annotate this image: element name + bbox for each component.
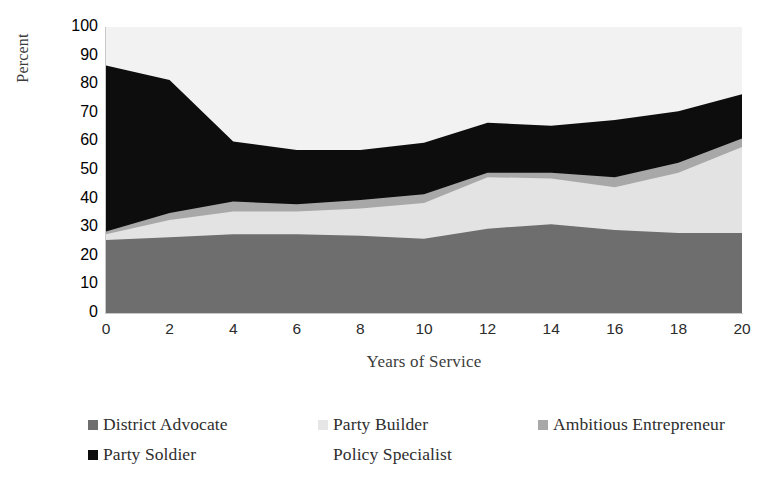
legend-label: Ambitious Entrepreneur bbox=[553, 414, 725, 435]
chart-legend: District AdvocateParty BuilderAmbitious … bbox=[88, 414, 748, 474]
x-tick-4: 4 bbox=[213, 320, 253, 338]
y-tick-70: 70 bbox=[40, 103, 98, 121]
legend-item-party-soldier[interactable]: Party Soldier bbox=[88, 444, 318, 465]
y-tick-50: 50 bbox=[40, 160, 98, 178]
legend-row-2: Party SoldierPolicy Specialist bbox=[88, 444, 748, 465]
x-tick-10: 10 bbox=[404, 320, 444, 338]
legend-label: District Advocate bbox=[103, 414, 228, 435]
legend-swatch-ambitious-entrepreneur bbox=[538, 420, 548, 430]
y-tick-30: 30 bbox=[40, 217, 98, 235]
legend-swatch-district-advocate bbox=[88, 420, 98, 430]
legend-label: Party Soldier bbox=[103, 444, 196, 465]
legend-swatch-party-soldier bbox=[88, 450, 98, 460]
y-tick-60: 60 bbox=[40, 131, 98, 149]
plot-area bbox=[106, 27, 742, 313]
x-tick-18: 18 bbox=[658, 320, 698, 338]
x-tick-20: 20 bbox=[722, 320, 762, 338]
y-tick-20: 20 bbox=[40, 246, 98, 264]
x-tick-0: 0 bbox=[86, 320, 126, 338]
x-axis-title: Years of Service bbox=[106, 352, 742, 372]
stacked-area-chart: Percent 0102030405060708090100 024681012… bbox=[0, 0, 779, 501]
legend-swatch-party-builder bbox=[318, 420, 328, 430]
y-tick-100: 100 bbox=[40, 17, 98, 35]
y-tick-80: 80 bbox=[40, 74, 98, 92]
y-axis-title: Percent bbox=[14, 0, 32, 118]
area-series-group bbox=[106, 27, 742, 313]
y-tick-10: 10 bbox=[40, 274, 98, 292]
legend-item-ambitious-entrepreneur[interactable]: Ambitious Entrepreneur bbox=[538, 414, 725, 435]
legend-swatch-policy-specialist bbox=[318, 450, 328, 460]
x-tick-8: 8 bbox=[340, 320, 380, 338]
x-tick-14: 14 bbox=[531, 320, 571, 338]
legend-label: Party Builder bbox=[333, 414, 428, 435]
x-tick-6: 6 bbox=[277, 320, 317, 338]
legend-row-1: District AdvocateParty BuilderAmbitious … bbox=[88, 414, 748, 435]
legend-label: Policy Specialist bbox=[333, 444, 452, 465]
legend-item-party-builder[interactable]: Party Builder bbox=[318, 414, 538, 435]
legend-item-policy-specialist[interactable]: Policy Specialist bbox=[318, 444, 538, 465]
y-tick-90: 90 bbox=[40, 46, 98, 64]
y-tick-40: 40 bbox=[40, 189, 98, 207]
x-tick-2: 2 bbox=[150, 320, 190, 338]
y-tick-0: 0 bbox=[40, 303, 98, 321]
x-tick-16: 16 bbox=[595, 320, 635, 338]
x-axis-line bbox=[106, 313, 743, 314]
x-tick-12: 12 bbox=[468, 320, 508, 338]
legend-item-district-advocate[interactable]: District Advocate bbox=[88, 414, 318, 435]
